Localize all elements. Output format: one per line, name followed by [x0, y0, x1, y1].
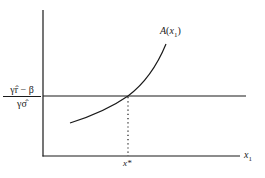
curve-label-sub: 1: [174, 31, 178, 39]
curve-label: A(x1): [160, 25, 181, 39]
threshold-numerator: γr̂ − β: [3, 84, 41, 97]
x-star-label: x*: [123, 158, 132, 168]
curve-label-func: A: [160, 25, 166, 36]
a-curve: [70, 44, 166, 123]
x-axis-label: x1: [244, 149, 252, 163]
x-axis-label-sub: 1: [248, 155, 252, 163]
threshold-label: γr̂ − β γσ̂: [3, 84, 41, 109]
threshold-denominator: γσ̂: [3, 97, 41, 109]
